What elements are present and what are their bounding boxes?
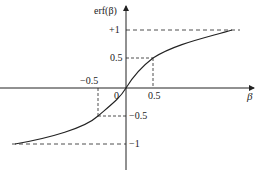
- x-axis-label: β: [246, 90, 253, 102]
- tick-neg-half-x: −0.5: [80, 75, 98, 86]
- tick-half-x: 0.5: [148, 90, 161, 101]
- tick-neg-one: −1: [129, 138, 140, 149]
- erf-curve: [15, 30, 232, 144]
- erf-chart: erf(β) +1 0.5 −0.5 0 0.5 β −0.5 −1: [0, 0, 258, 180]
- tick-half-y: 0.5: [110, 52, 123, 63]
- tick-origin: 0: [114, 90, 119, 101]
- tick-plus-one: +1: [109, 24, 120, 35]
- y-axis-label: erf(β): [94, 5, 117, 17]
- tick-neg-half-y: −0.5: [129, 110, 147, 121]
